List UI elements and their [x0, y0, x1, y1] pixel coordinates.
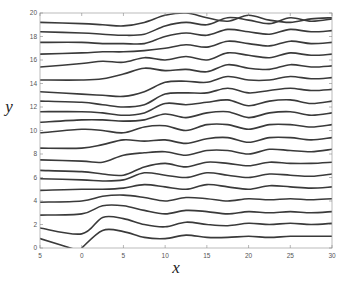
y-tick-label: 20 [30, 9, 38, 16]
streamline-6 [40, 185, 332, 191]
y-axis-label: y [3, 97, 13, 116]
y-tick-label: 2 [33, 221, 37, 228]
y-tick-label: 18 [30, 33, 38, 40]
x-tick-label: 20 [245, 252, 253, 259]
streamline-4 [40, 205, 332, 215]
streamline-5 [40, 195, 332, 202]
x-tick-label: 10 [162, 252, 170, 259]
y-tick-label: 0 [33, 244, 37, 251]
streamline-9 [40, 149, 332, 162]
x-tick-label: 5 [122, 252, 126, 259]
y-tick-label: 12 [30, 103, 38, 110]
y-tick-label: 16 [30, 56, 38, 63]
x-tick-label: 15 [203, 252, 211, 259]
x-tick-label: 5 [38, 252, 42, 259]
streamline-11 [40, 124, 332, 133]
y-tick-label: 10 [30, 127, 38, 134]
y-tick-label: 4 [33, 197, 37, 204]
x-axis-label: x [171, 258, 180, 277]
x-tick-label: 0 [80, 252, 84, 259]
x-tick-label: 25 [287, 252, 295, 259]
streamline-21 [40, 13, 332, 26]
streamline-chart: 5051015202530 02468101214161820 x y [0, 0, 345, 282]
streamline-10 [40, 137, 332, 148]
y-tick-label: 14 [30, 80, 38, 87]
y-tick-label: 8 [33, 150, 37, 157]
streamline-3 [40, 216, 332, 234]
x-tick-label: 30 [328, 252, 336, 259]
y-tick-label: 6 [33, 174, 37, 181]
streamline-8 [40, 162, 332, 176]
streamline-1 [40, 239, 82, 252]
streamline-12 [40, 111, 332, 122]
streamlines [40, 13, 332, 252]
streamline-16 [40, 65, 332, 80]
streamline-7 [40, 173, 332, 181]
